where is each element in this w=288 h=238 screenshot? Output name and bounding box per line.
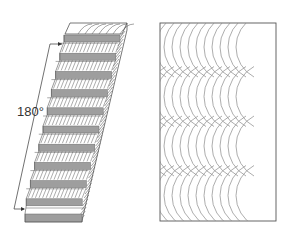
angle-label: 180° xyxy=(17,104,44,119)
grain-panel xyxy=(100,17,276,226)
laminated-beam xyxy=(14,23,134,222)
panel-outline xyxy=(160,23,276,221)
lamella-stack xyxy=(25,35,120,222)
diagram-canvas xyxy=(0,0,288,238)
